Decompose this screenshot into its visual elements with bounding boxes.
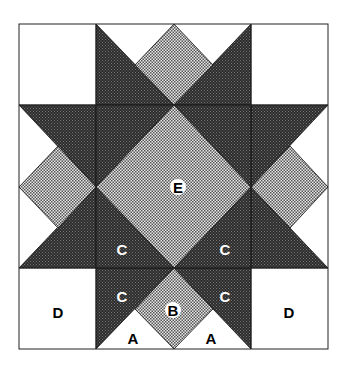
label-c-2: C [220,241,231,258]
label-a-1: A [128,330,139,347]
label-a-2: A [206,330,217,347]
label-c-3: C [117,288,128,305]
quilt-block-diagram: E C C C C B A A D D [0,0,341,369]
label-d-2: D [284,304,295,321]
label-d-1: D [53,304,64,321]
label-c-1: C [117,241,128,258]
label-c-4: C [220,288,231,305]
label-b: B [168,302,179,319]
label-e: E [173,179,183,196]
